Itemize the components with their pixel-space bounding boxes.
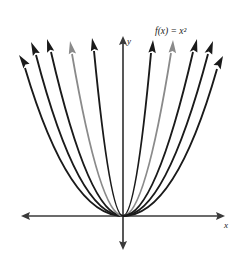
- figure-background: [0, 0, 238, 265]
- y-axis-label: y: [126, 36, 131, 46]
- function-label: f(x) = x²: [155, 26, 187, 37]
- parabola-figure: y x f(x) = x²: [0, 0, 238, 265]
- x-axis-label: x: [223, 220, 228, 230]
- function-label-fx: f(x) = x²: [155, 26, 187, 37]
- figure-canvas: y x f(x) = x²: [0, 0, 238, 265]
